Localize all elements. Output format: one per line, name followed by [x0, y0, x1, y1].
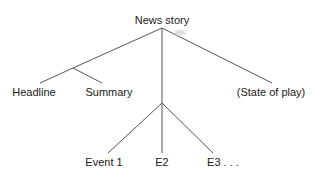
- node-headline: Headline: [12, 86, 55, 99]
- node-e2: E2: [155, 156, 168, 169]
- edge-junction-to-summary: [73, 68, 102, 83]
- edge-junction-to-event1: [108, 103, 162, 153]
- node-root: News story: [135, 14, 189, 27]
- node-summary: Summary: [85, 86, 132, 99]
- edge-root-to-state: [162, 28, 272, 83]
- edge-junction-to-headline: [40, 68, 73, 83]
- edge-junction-to-e3: [162, 103, 213, 153]
- smudge-artifact: [174, 30, 186, 35]
- node-event1: Event 1: [85, 156, 122, 169]
- node-state-of-play: (State of play): [237, 86, 305, 99]
- node-e3: E3 . . .: [207, 156, 239, 169]
- edge-root-to-left-junction: [73, 28, 162, 68]
